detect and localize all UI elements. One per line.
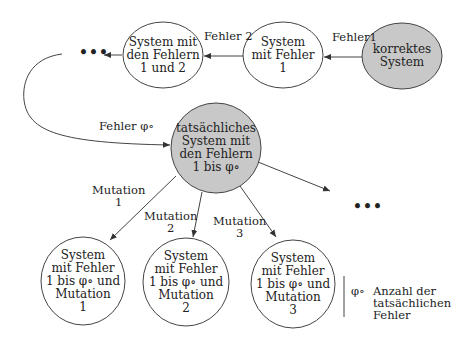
node-mutation-3: System mit Fehler 1 bis φ∘ und Mutation … — [251, 240, 335, 328]
ellipsis-right: ••• — [353, 198, 383, 214]
legend-text: Anzahl der tatsächlichen Fehler — [373, 285, 451, 321]
edge-label-fehler1: Fehler1 — [332, 31, 377, 43]
node-actual-system: tatsächliches System mit den Fehlern 1 b… — [171, 103, 261, 193]
ellipsis-top: ••• — [79, 44, 109, 60]
edge-label-mutation-1: Mutation 1 — [92, 184, 145, 208]
edge-label-fehler2: Fehler 2 — [204, 30, 253, 42]
edge-label-mutation-2: Mutation 2 — [144, 210, 197, 234]
node-system-faults-1-2: System mit den Fehlern 1 und 2 — [123, 22, 203, 88]
legend-symbol: φ∘ — [351, 285, 365, 297]
edge-label-mutation-3: Mutation 3 — [213, 215, 266, 239]
node-mutation-2: System mit Fehler 1 bis φ∘ und Mutation … — [143, 238, 229, 326]
node-system-fault-1: System mit Fehler 1 — [243, 22, 323, 88]
edge-label-fehler-phi: Fehler φ∘ — [99, 120, 154, 132]
node-mutation-1: System mit Fehler 1 bis φ∘ und Mutation … — [41, 237, 125, 325]
